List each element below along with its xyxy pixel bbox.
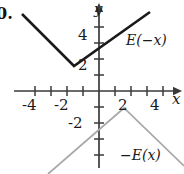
graph-figure: 0. y x 4 2 -2 -4 -2 2 4 E(−x) −E(x) <box>0 0 184 174</box>
x-axis-label: x <box>172 92 180 107</box>
curve-label-e-of-negative-x: E(−x) <box>126 33 167 47</box>
curve-label-negative-e-of-x: −E(x) <box>120 148 161 162</box>
x-tick-label-2: 2 <box>118 98 128 113</box>
x-tick-label-4: 4 <box>150 98 160 113</box>
x-tick-label-negative-2: -2 <box>54 98 69 113</box>
y-tick-label-4: 4 <box>78 28 88 43</box>
x-tick-label-negative-4: -4 <box>22 98 37 113</box>
y-tick-label-2: 2 <box>78 58 88 73</box>
y-axis-label: y <box>94 2 102 17</box>
y-tick-label-negative-2: -2 <box>68 116 83 131</box>
problem-number: 0. <box>0 6 13 22</box>
